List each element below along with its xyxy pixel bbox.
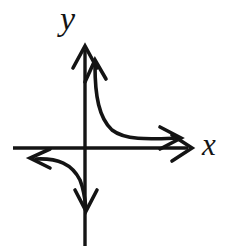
graph-canvas	[0, 0, 238, 252]
y-axis-label: y	[60, 2, 75, 36]
x-axis-label: x	[202, 129, 216, 160]
curve-branch-lower-left	[30, 149, 97, 211]
graph-figure: y x	[0, 0, 238, 252]
curve-branch-upper-right	[85, 60, 181, 149]
